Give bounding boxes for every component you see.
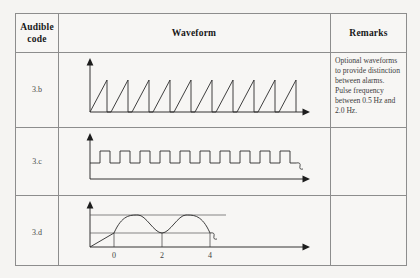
remarks-cell-3d: [330, 195, 407, 266]
scanned-page: Audible code Waveform Remarks 3.b Option…: [0, 0, 420, 278]
header-remarks: Remarks: [330, 28, 407, 40]
header-audible-code: Audible code: [16, 22, 58, 46]
remarks-cell-3c: [330, 127, 407, 195]
sine-waveform-chart: 0 2 4: [58, 195, 330, 266]
sawtooth-waveform-chart: [58, 52, 330, 127]
tick-label-4: 4: [208, 251, 212, 260]
waveform-table: Audible code Waveform Remarks 3.b Option…: [15, 13, 407, 266]
header-audible-code-line1: Audible: [16, 22, 58, 34]
remarks-cell-3b: Optional waveforms to provide distinctio…: [330, 52, 407, 127]
tick-label-0: 0: [112, 251, 116, 260]
square-waveform-chart: [58, 127, 330, 195]
waveform-cell-3d: 0 2 4: [58, 195, 330, 266]
table-row-code-3c: 3.c: [16, 157, 58, 166]
tick-label-2: 2: [160, 251, 164, 260]
waveform-cell-3b: [58, 52, 330, 127]
waveform-cell-3c: [58, 127, 330, 195]
table-row-code-3b: 3.b: [16, 85, 58, 94]
header-audible-code-line2: code: [16, 34, 58, 46]
table-row-code-3d: 3.d: [16, 228, 58, 237]
header-waveform: Waveform: [58, 28, 330, 40]
